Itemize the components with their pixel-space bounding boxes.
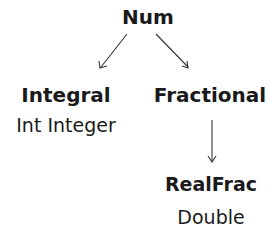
node-realfrac: RealFrac — [165, 173, 257, 195]
realfrac-members: Double — [177, 206, 244, 228]
edge-num-integral — [101, 34, 127, 67]
node-integral: Integral — [21, 83, 110, 107]
edge-num-fractional — [156, 34, 188, 67]
integral-members: Int Integer — [16, 114, 115, 136]
node-num: Num — [122, 5, 174, 29]
node-fractional: Fractional — [154, 83, 266, 107]
